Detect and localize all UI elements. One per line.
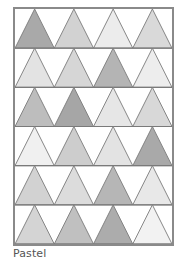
triangle-tile — [54, 127, 93, 166]
triangle-tile — [54, 87, 93, 126]
triangle-tile — [15, 48, 54, 87]
triangle-tile — [15, 205, 54, 244]
triangle-tile — [54, 166, 93, 205]
pattern-swatch[interactable] — [13, 7, 174, 246]
triangle-tile — [54, 9, 93, 48]
triangle-tile — [133, 48, 172, 87]
triangle-tile — [94, 48, 133, 87]
triangle-tile — [133, 127, 172, 166]
pattern-name-label: Pastel — [13, 247, 46, 260]
triangle-tile — [94, 205, 133, 244]
triangle-tile — [15, 166, 54, 205]
triangle-tile — [133, 166, 172, 205]
triangle-tile — [15, 87, 54, 126]
triangle-tile — [94, 87, 133, 126]
triangle-tile — [15, 127, 54, 166]
triangle-tile — [15, 9, 54, 48]
triangle-tile — [94, 9, 133, 48]
triangle-tile — [54, 48, 93, 87]
triangle-tile — [133, 87, 172, 126]
triangle-tile — [94, 166, 133, 205]
triangle-tile — [54, 205, 93, 244]
triangle-pattern-graphic — [15, 9, 172, 244]
triangle-tile — [133, 205, 172, 244]
triangle-tile — [133, 9, 172, 48]
triangle-tile — [94, 127, 133, 166]
